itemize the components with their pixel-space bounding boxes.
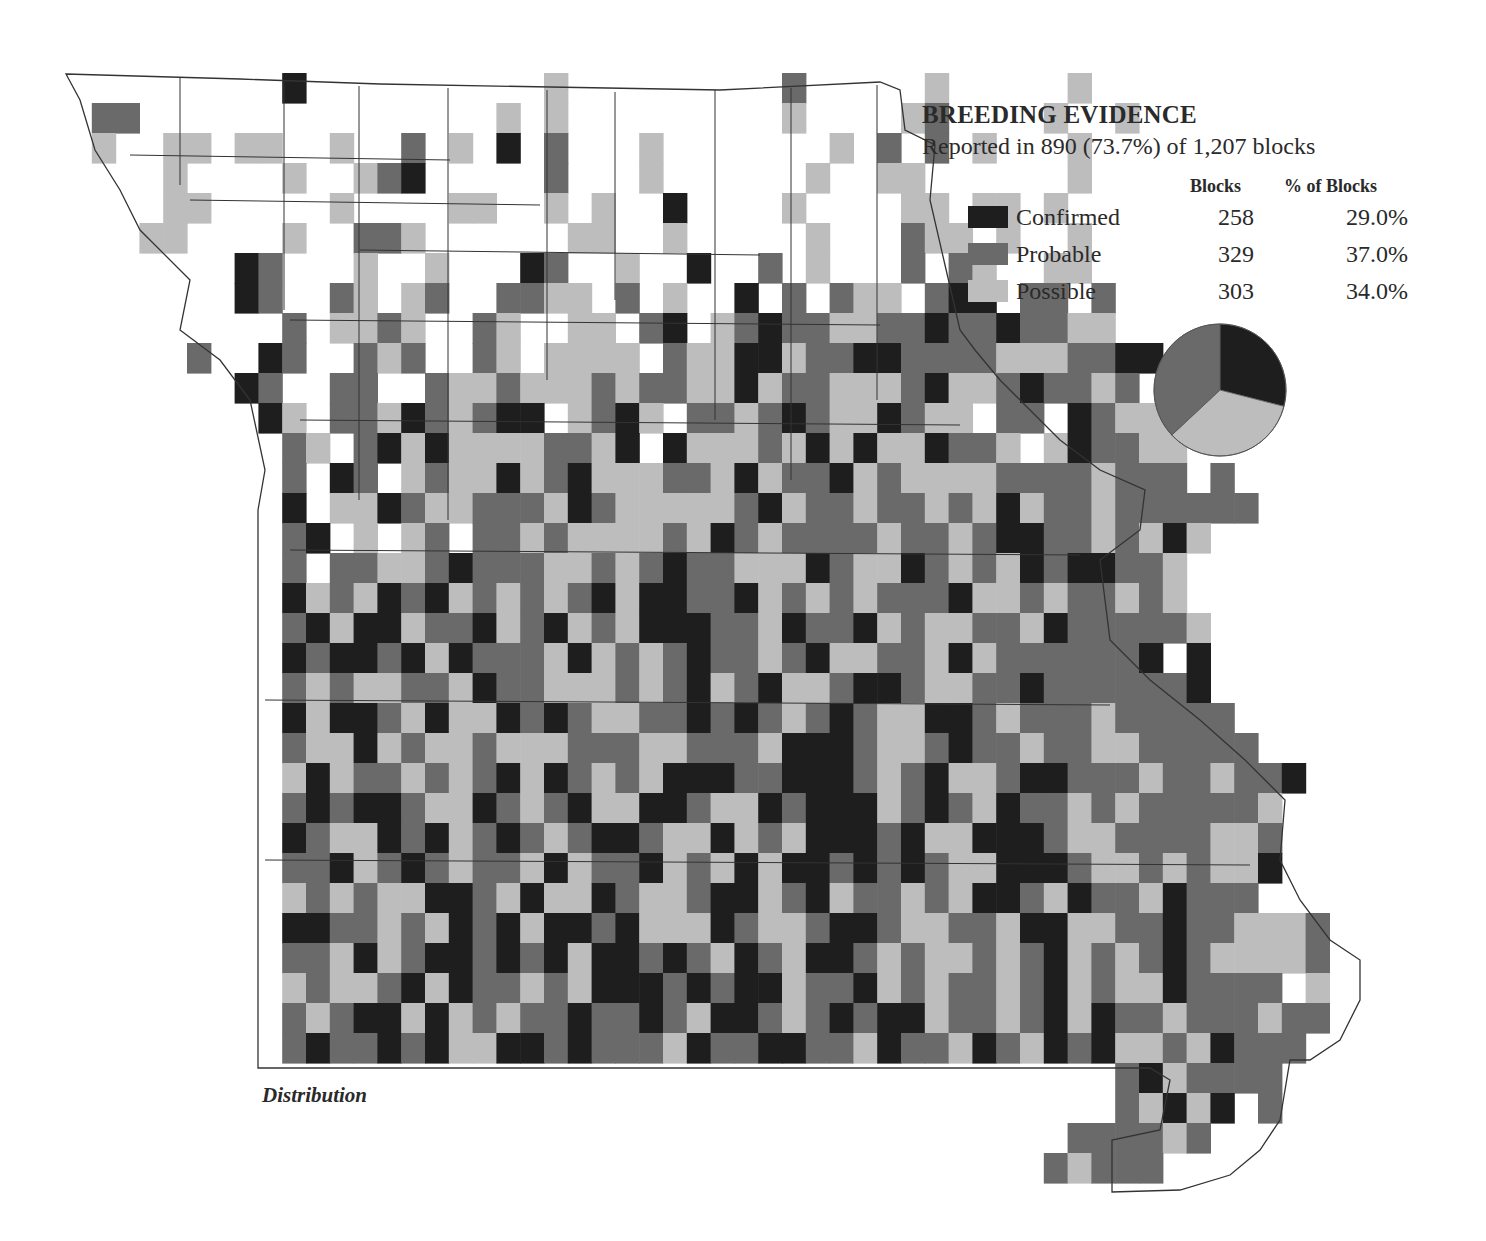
block-cell	[972, 463, 996, 494]
block-cell	[1187, 643, 1211, 674]
block-cell	[354, 373, 378, 404]
block-cell	[1091, 1033, 1115, 1064]
block-cell	[1139, 553, 1163, 584]
block-cell	[734, 793, 758, 824]
block-cell	[1091, 973, 1115, 1004]
block-cell	[615, 1033, 639, 1064]
block-cell	[782, 943, 806, 974]
block-cell	[92, 103, 116, 134]
block-cell	[996, 673, 1020, 704]
block-cell	[996, 553, 1020, 584]
block-cell	[1020, 373, 1044, 404]
block-cell	[1068, 1003, 1092, 1034]
block-cell	[544, 943, 568, 974]
block-cell	[806, 973, 830, 1004]
block-cell	[687, 823, 711, 854]
block-cell	[496, 883, 520, 914]
block-cell	[1234, 823, 1258, 854]
block-cell	[925, 733, 949, 764]
block-cell	[687, 973, 711, 1004]
confirmed-swatch	[968, 206, 1008, 228]
block-cell	[949, 493, 973, 524]
block-cell	[354, 823, 378, 854]
block-cell	[901, 553, 925, 584]
block-cell	[901, 613, 925, 644]
legend-label: Probable	[1016, 241, 1176, 268]
block-cell	[520, 613, 544, 644]
block-cell	[782, 313, 806, 344]
block-cell	[1044, 343, 1068, 374]
block-cell	[1068, 523, 1092, 554]
block-cell	[425, 433, 449, 464]
block-cell	[711, 703, 735, 734]
block-cell	[377, 733, 401, 764]
block-cell	[377, 913, 401, 944]
block-cell	[473, 403, 497, 434]
block-cell	[544, 703, 568, 734]
block-cell	[1258, 853, 1282, 884]
block-cell	[1091, 913, 1115, 944]
block-cell	[687, 643, 711, 674]
block-cell	[877, 583, 901, 614]
block-cell	[734, 493, 758, 524]
block-cell	[282, 163, 306, 194]
block-cell	[734, 853, 758, 884]
block-cell	[663, 433, 687, 464]
block-cell	[258, 403, 282, 434]
block-cell	[996, 703, 1020, 734]
block-cell	[1139, 883, 1163, 914]
block-cell	[877, 853, 901, 884]
block-cell	[806, 733, 830, 764]
block-cell	[1115, 943, 1139, 974]
block-cell	[1091, 823, 1115, 854]
block-cell	[996, 433, 1020, 464]
block-cell	[663, 733, 687, 764]
block-cell	[568, 523, 592, 554]
block-cell	[520, 823, 544, 854]
block-cell	[1306, 1003, 1330, 1034]
block-cell	[925, 553, 949, 584]
block-cell	[1187, 943, 1211, 974]
block-cell	[377, 1033, 401, 1064]
block-cell	[949, 793, 973, 824]
block-cell	[711, 343, 735, 374]
legend-subtitle: Reported in 890 (73.7%) of 1,207 blocks	[922, 130, 1442, 162]
block-cell	[972, 673, 996, 704]
block-cell	[734, 1033, 758, 1064]
block-cell	[568, 283, 592, 314]
block-cell	[354, 313, 378, 344]
block-cell	[877, 493, 901, 524]
block-cell	[449, 583, 473, 614]
block-cell	[1234, 1003, 1258, 1034]
block-cell	[901, 193, 925, 224]
block-cell	[592, 553, 616, 584]
block-cell	[544, 283, 568, 314]
block-cell	[258, 343, 282, 374]
block-cell	[663, 583, 687, 614]
block-cell	[449, 853, 473, 884]
block-cell	[663, 943, 687, 974]
block-cell	[401, 343, 425, 374]
block-cell	[734, 913, 758, 944]
block-cell	[758, 943, 782, 974]
block-cell	[782, 763, 806, 794]
block-cell	[520, 913, 544, 944]
block-cell	[1020, 343, 1044, 374]
block-cell	[925, 493, 949, 524]
block-cell	[1091, 613, 1115, 644]
block-cell	[996, 313, 1020, 344]
block-cell	[711, 493, 735, 524]
block-cell	[877, 373, 901, 404]
block-cell	[496, 583, 520, 614]
block-cell	[568, 1003, 592, 1034]
block-cell	[425, 1003, 449, 1034]
block-cell	[925, 673, 949, 704]
legend-label: Confirmed	[1016, 204, 1176, 231]
block-cell	[1020, 613, 1044, 644]
block-cell	[758, 733, 782, 764]
block-cell	[949, 523, 973, 554]
block-cell	[1044, 853, 1068, 884]
block-cell	[639, 733, 663, 764]
block-cell	[663, 553, 687, 584]
block-cell	[877, 883, 901, 914]
